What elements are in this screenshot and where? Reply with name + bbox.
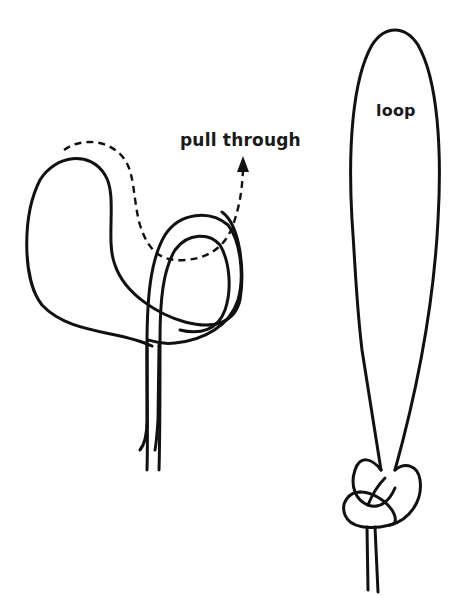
- knot-diagram: pull through loop: [0, 0, 476, 598]
- rope-long-loop: [351, 30, 440, 470]
- left-figure-step-pull-through: [27, 142, 249, 470]
- knot-body: [344, 460, 421, 528]
- rope-small-loop-inner: [159, 236, 229, 470]
- knot-illustration: [0, 0, 476, 598]
- loop-label: loop: [376, 101, 416, 120]
- pull-through-label: pull through: [180, 130, 301, 150]
- rope-standing-end-1: [140, 345, 147, 450]
- knot-strand-1: [353, 460, 395, 506]
- dashed-arrow-up-icon: [237, 156, 249, 172]
- rope-standing-end-2: [155, 345, 159, 450]
- rope-tail-1: [367, 527, 368, 590]
- rope-tail-2: [375, 527, 378, 592]
